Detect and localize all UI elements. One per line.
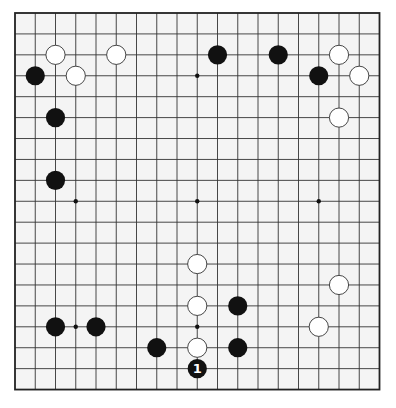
black-stone-circle [269, 45, 288, 64]
black-stone-circle [46, 317, 65, 336]
black-stone-circle [147, 338, 166, 357]
black-stone [208, 45, 227, 64]
black-stone-circle [228, 338, 247, 357]
black-stone [46, 108, 65, 127]
white-stone-circle [329, 108, 348, 127]
black-stone-circle [46, 108, 65, 127]
white-stone-circle [188, 254, 207, 273]
move-number-label: 1 [193, 361, 202, 376]
white-stone [188, 338, 207, 357]
black-stone [86, 317, 105, 336]
white-stone-circle [350, 66, 369, 85]
star-point [317, 199, 321, 203]
black-stone-numbered: 1 [188, 359, 207, 378]
black-stone [309, 66, 328, 85]
star-point [74, 199, 78, 203]
white-stone-circle [329, 275, 348, 294]
black-stone [269, 45, 288, 64]
white-stone-circle [66, 66, 85, 85]
black-stone-circle [86, 317, 105, 336]
black-stone-circle [208, 45, 227, 64]
star-point [74, 325, 78, 329]
white-stone-circle [188, 296, 207, 315]
white-stone [350, 66, 369, 85]
black-stone [228, 296, 247, 315]
black-stone [228, 338, 247, 357]
star-point [195, 325, 199, 329]
star-point [195, 199, 199, 203]
white-stone-circle [188, 338, 207, 357]
star-point [195, 74, 199, 78]
white-stone [188, 296, 207, 315]
black-stone-circle [309, 66, 328, 85]
go-board[interactable]: 1 [0, 0, 396, 408]
black-stone [147, 338, 166, 357]
white-stone [329, 275, 348, 294]
black-stone-circle [228, 296, 247, 315]
white-stone-circle [329, 45, 348, 64]
white-stone [46, 45, 65, 64]
white-stone [329, 108, 348, 127]
black-stone-circle [26, 66, 45, 85]
black-stone [26, 66, 45, 85]
go-board-diagram: 1 [0, 0, 396, 408]
black-stone [46, 171, 65, 190]
white-stone-circle [309, 317, 328, 336]
white-stone [66, 66, 85, 85]
black-stone-circle [46, 171, 65, 190]
black-stone [46, 317, 65, 336]
white-stone [107, 45, 126, 64]
white-stone [309, 317, 328, 336]
white-stone [329, 45, 348, 64]
white-stone-circle [46, 45, 65, 64]
white-stone-circle [107, 45, 126, 64]
white-stone [188, 254, 207, 273]
